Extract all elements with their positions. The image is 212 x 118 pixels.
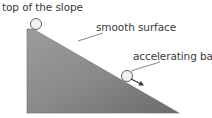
ball-on-incline	[122, 71, 133, 82]
ball-leader-line	[131, 62, 160, 71]
ball-at-top	[31, 19, 42, 30]
top-of-slope-label: top of the slope	[2, 1, 83, 13]
smooth-surface-label: smooth surface	[96, 21, 176, 33]
accelerating-ball-label: accelerating ball	[133, 50, 212, 62]
surface-leader-line	[78, 33, 103, 41]
slope	[27, 29, 179, 113]
